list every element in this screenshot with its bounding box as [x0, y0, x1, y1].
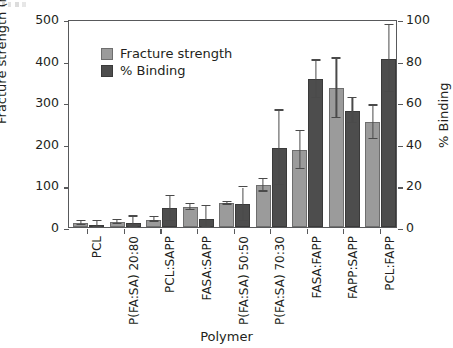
error-bar-cap-upper — [129, 215, 138, 216]
error-bar — [169, 196, 170, 221]
x-axis-category-label: P(FA:SA) 20:80 — [128, 236, 140, 325]
error-bar-cap-upper — [113, 219, 122, 220]
x-axis-tick — [343, 229, 344, 234]
legend-item-fracture-strength: Fracture strength — [101, 45, 232, 62]
error-bar-cap-lower — [275, 184, 284, 185]
error-bar — [372, 106, 373, 139]
error-bar-wrap-fracture-strength — [256, 21, 271, 227]
error-bar-cap-upper — [275, 109, 284, 110]
legend: Fracture strength % Binding — [101, 45, 232, 79]
error-bar-cap-lower — [222, 203, 231, 204]
error-bar — [336, 59, 337, 119]
legend-swatch-fracture-strength — [101, 48, 113, 60]
x-axis-category-label: FASA:SAPP — [201, 236, 213, 300]
error-bar-cap-lower — [311, 97, 320, 98]
error-bar-cap-lower — [113, 223, 122, 224]
error-bar — [315, 61, 316, 98]
error-bar-cap-upper — [92, 220, 101, 221]
x-axis-category-label: PCL:FAPP — [384, 236, 396, 291]
error-bar-cap-upper — [295, 130, 304, 131]
error-bar — [352, 98, 353, 123]
error-bar-cap-upper — [202, 205, 211, 206]
y-axis-left-tick — [64, 21, 69, 22]
x-axis-category-label: P(FA:SA) 70:30 — [274, 236, 286, 325]
error-bar-cap-lower — [238, 220, 247, 221]
legend-label-fracture-strength: Fracture strength — [120, 47, 232, 60]
error-bar — [299, 131, 300, 168]
x-axis-tick — [234, 229, 235, 234]
error-bar-cap-lower — [368, 138, 377, 139]
error-bar — [388, 25, 389, 92]
bar-group — [363, 21, 400, 227]
error-bar-wrap-binding — [235, 21, 250, 227]
error-bar-wrap-fracture-strength — [365, 21, 380, 227]
error-bar-wrap-fracture-strength — [329, 21, 344, 227]
error-bar-wrap-fracture-strength — [73, 21, 88, 227]
y-axis-right-tick-label: 100 — [406, 14, 430, 27]
y-axis-left-tick-label: 400 — [0, 56, 59, 69]
legend-swatch-binding — [101, 65, 113, 77]
error-bar-cap-lower — [384, 91, 393, 92]
x-axis-tick — [160, 229, 161, 234]
legend-item-binding: % Binding — [101, 62, 232, 79]
y-axis-right-title: % Binding — [437, 82, 450, 148]
x-axis-tick — [380, 229, 381, 234]
error-bar-cap-lower — [92, 226, 101, 227]
error-bar-cap-upper — [348, 97, 357, 98]
x-axis-title: Polymer — [0, 330, 453, 343]
error-bar-cap-lower — [202, 226, 211, 227]
error-bar-cap-upper — [222, 201, 231, 202]
error-bar-cap-upper — [165, 195, 174, 196]
y-axis-right-tick-label: 40 — [406, 139, 422, 152]
y-axis-right-tick — [398, 21, 403, 22]
error-bar-cap-upper — [368, 104, 377, 105]
x-axis-tick — [197, 229, 198, 234]
y-axis-left-tick — [64, 146, 69, 147]
error-bar-cap-lower — [295, 168, 304, 169]
figure: Fracture strength (mN/cm2) % Binding Pol… — [0, 0, 453, 348]
error-bar-cap-lower — [76, 224, 85, 225]
y-axis-left-tick-label: 200 — [0, 139, 59, 152]
error-bar-cap-upper — [186, 203, 195, 204]
x-axis-category-label: P(FA:SA) 50:50 — [238, 236, 250, 325]
x-axis-tick — [270, 229, 271, 234]
error-bar-cap-lower — [165, 220, 174, 221]
y-axis-left-tick — [64, 63, 69, 64]
x-axis-tick — [307, 229, 308, 234]
y-axis-left-tick — [64, 104, 69, 105]
error-bar-wrap-binding — [381, 21, 396, 227]
bar-group — [327, 21, 364, 227]
error-bar — [206, 206, 207, 227]
y-axis-left-tick-label: 100 — [0, 180, 59, 193]
y-axis-left-tick — [64, 187, 69, 188]
x-axis-tick — [124, 229, 125, 234]
error-bar-cap-lower — [332, 117, 341, 118]
error-bar-cap-lower — [259, 190, 268, 191]
error-bar-wrap-binding — [272, 21, 287, 227]
x-axis-category-label: FAPP:SAPP — [347, 236, 359, 299]
error-bar-cap-lower — [149, 220, 158, 221]
y-axis-right-tick-label: 0 — [406, 222, 414, 235]
bar-group — [254, 21, 291, 227]
error-bar-wrap-binding — [308, 21, 323, 227]
x-axis-tick — [87, 229, 88, 234]
y-axis-left-tick-label: 300 — [0, 97, 59, 110]
error-bar-cap-upper — [149, 216, 158, 217]
y-axis-right-tick — [398, 187, 403, 188]
error-bar-cap-upper — [311, 59, 320, 60]
error-bar — [242, 188, 243, 221]
bar-group — [290, 21, 327, 227]
error-bar-wrap-binding — [345, 21, 360, 227]
x-axis-category-label: FASA:FAPP — [311, 236, 323, 298]
y-axis-right-tick — [398, 104, 403, 105]
y-axis-left-tick-label: 0 — [0, 222, 59, 235]
x-axis-category-label: PCL:SAPP — [164, 236, 176, 293]
y-axis-right-tick — [398, 229, 403, 230]
error-bar — [279, 111, 280, 186]
y-axis-left-tick-label: 500 — [0, 14, 59, 27]
error-bar-cap-upper — [76, 220, 85, 221]
y-axis-right-tick-label: 60 — [406, 97, 422, 110]
y-axis-left-tick — [64, 229, 69, 230]
y-axis-right-tick — [398, 146, 403, 147]
y-axis-right-tick-label: 80 — [406, 56, 422, 69]
